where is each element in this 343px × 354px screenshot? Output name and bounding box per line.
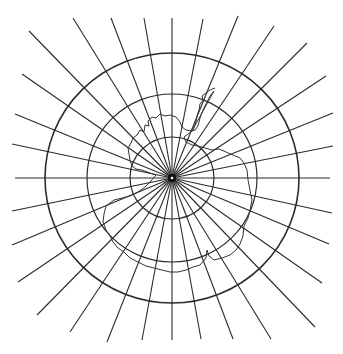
meridian-line bbox=[172, 178, 233, 339]
meridian-line bbox=[172, 178, 322, 283]
meridian-line bbox=[107, 178, 172, 342]
south-pole-marker bbox=[168, 174, 176, 182]
meridian-line bbox=[111, 18, 172, 178]
meridian-line bbox=[142, 178, 172, 340]
meridian-line bbox=[37, 178, 172, 315]
meridian-line bbox=[73, 18, 172, 178]
meridian-line bbox=[172, 16, 238, 178]
antarctica-polar-map bbox=[0, 0, 343, 354]
meridian-line bbox=[172, 178, 315, 327]
meridian-line bbox=[70, 178, 172, 332]
